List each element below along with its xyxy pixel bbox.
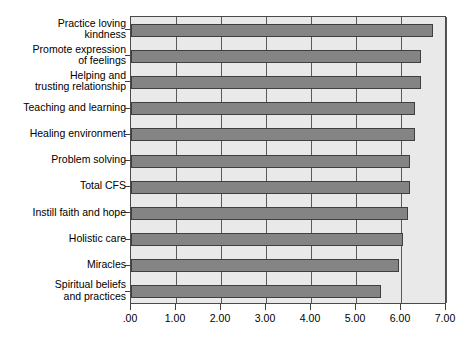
bar-row (131, 76, 421, 89)
gridline (446, 17, 447, 303)
category-label: Spiritual beliefs and practices (2, 279, 126, 302)
category-label: Instill faith and hope (2, 207, 126, 219)
category-label: Teaching and learning (2, 102, 126, 114)
bar-row (131, 128, 415, 141)
bar-row (131, 259, 399, 272)
x-axis-tick (355, 304, 356, 310)
bar (131, 24, 433, 37)
bar-row (131, 155, 410, 168)
category-label: Helping and trusting relationship (2, 70, 126, 93)
bar (131, 259, 399, 272)
x-axis-tick-label: 7.00 (415, 312, 460, 324)
category-label: Problem solving (2, 154, 126, 166)
bar (131, 76, 421, 89)
x-axis-tick (265, 304, 266, 310)
bar-row (131, 24, 433, 37)
bar-row (131, 102, 415, 115)
x-axis-tick (310, 304, 311, 310)
category-label: Healing environment (2, 128, 126, 140)
bar (131, 207, 408, 220)
bar-row (131, 285, 381, 298)
category-label: Total CFS (2, 180, 126, 192)
bar (131, 181, 410, 194)
bar-row (131, 181, 410, 194)
bar (131, 50, 421, 63)
bar-row (131, 207, 408, 220)
bar-row (131, 233, 403, 246)
x-axis-tick (400, 304, 401, 310)
category-label: Practice loving kindness (2, 18, 126, 41)
bar-row (131, 50, 421, 63)
category-label: Promote expression of feelings (2, 44, 126, 67)
bar (131, 128, 415, 141)
bar (131, 233, 403, 246)
bar (131, 155, 410, 168)
plot-area (130, 16, 446, 304)
x-axis-tick (445, 304, 446, 310)
x-axis-tick (130, 304, 131, 310)
x-axis-tick (175, 304, 176, 310)
category-label: Holistic care (2, 233, 126, 245)
x-axis-tick (220, 304, 221, 310)
bar (131, 102, 415, 115)
bar (131, 285, 381, 298)
category-label: Miracles (2, 259, 126, 271)
